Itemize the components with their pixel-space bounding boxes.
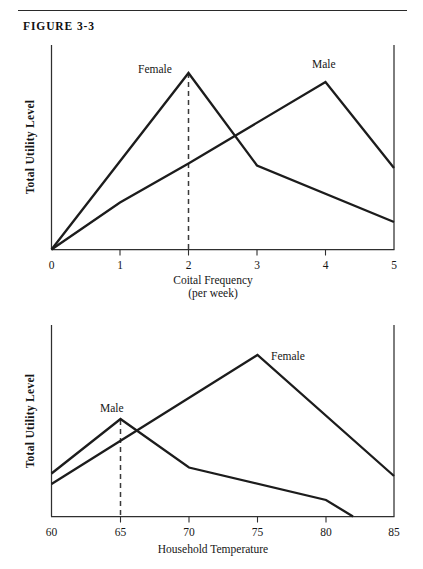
x-tick-label-75: 75 <box>252 526 264 538</box>
series-label-female: Female <box>271 350 305 362</box>
x-tick-label-1: 1 <box>117 259 123 271</box>
chart-bottom-annotations: Male Female <box>100 350 305 414</box>
x-tick-label-5: 5 <box>391 259 397 271</box>
x-axis-title-line2: (per week) <box>188 287 238 300</box>
chart-top-axes <box>51 45 395 250</box>
chart-top-series <box>52 73 395 250</box>
chart-coital-frequency: 0 1 2 3 4 5 Female Male Coital Frequency… <box>0 36 423 301</box>
chart-household-temperature: 60 65 70 75 80 85 Male Female Household … <box>0 316 423 569</box>
header-divider-rule <box>18 10 407 11</box>
series-curve-female <box>52 73 395 250</box>
series-curve-male <box>52 82 395 250</box>
chart-bottom-axes <box>51 325 395 517</box>
x-tick-label-60: 60 <box>46 526 58 538</box>
series-label-male: Male <box>312 58 336 70</box>
chart-bottom-axis-titles: Household Temperature Total Utility Leve… <box>24 374 268 556</box>
chart-top-xticks <box>120 250 326 256</box>
x-tick-label-3: 3 <box>254 259 260 271</box>
x-tick-label-65: 65 <box>115 526 127 538</box>
x-tick-label-85: 85 <box>388 526 400 538</box>
figure-title: FIGURE 3-3 <box>23 20 95 32</box>
chart-bottom-tick-labels: 60 65 70 75 80 85 <box>46 526 400 538</box>
chart-top-axis-titles: Coital Frequency (per week) Total Utilit… <box>24 100 253 300</box>
y-axis-title: Total Utility Level <box>24 374 37 469</box>
series-curve-male <box>52 419 354 517</box>
series-label-male: Male <box>100 402 124 414</box>
x-axis-title: Household Temperature <box>158 543 268 556</box>
chart-top-tick-labels: 0 1 2 3 4 5 <box>49 259 398 271</box>
chart-bottom-svg: 60 65 70 75 80 85 Male Female Household … <box>0 316 423 569</box>
chart-bottom-series <box>52 355 395 517</box>
chart-bottom-xticks <box>121 517 327 523</box>
series-label-female: Female <box>138 63 172 75</box>
series-curve-female <box>52 355 395 484</box>
x-tick-label-70: 70 <box>183 526 195 538</box>
x-tick-label-80: 80 <box>320 526 332 538</box>
chart-top-svg: 0 1 2 3 4 5 Female Male Coital Frequency… <box>0 36 423 301</box>
y-axis-title: Total Utility Level <box>24 100 37 195</box>
x-tick-label-2: 2 <box>186 259 192 271</box>
x-tick-label-4: 4 <box>323 259 329 271</box>
x-tick-label-0: 0 <box>49 259 55 271</box>
x-axis-title-line1: Coital Frequency <box>173 274 253 287</box>
figure-page: FIGURE 3-3 0 1 <box>0 0 423 569</box>
chart-top-annotations: Female Male <box>138 58 336 75</box>
